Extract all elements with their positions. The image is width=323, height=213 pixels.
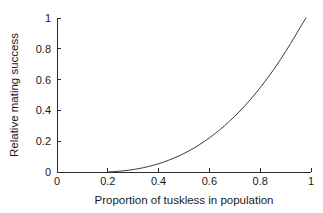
y-tick-label: 0.4 (36, 104, 51, 116)
y-tick-label: 0.2 (36, 135, 51, 147)
x-tick-label: 0.4 (151, 175, 166, 187)
y-axis-title: Relative mating success (8, 33, 20, 157)
y-tick-label: 0.8 (36, 43, 51, 55)
y-axis-tick-marks (57, 18, 61, 172)
y-tick-label: 1 (45, 12, 51, 24)
x-tick-label: 0.8 (253, 175, 268, 187)
x-tick-label: 0.2 (100, 175, 115, 187)
x-tick-label: 0.6 (202, 175, 217, 187)
x-axis-tick-labels: 00.20.40.60.81 (54, 175, 314, 187)
plot-canvas: 00.20.40.60.81 00.20.40.60.81 Proportion… (0, 0, 323, 213)
y-tick-label: 0.6 (36, 74, 51, 86)
data-series-curve (108, 18, 306, 172)
x-axis-title: Proportion of tuskless in population (95, 194, 274, 206)
x-tick-label: 1 (308, 175, 314, 187)
x-axis-tick-marks (57, 168, 311, 172)
x-tick-label: 0 (54, 175, 60, 187)
y-tick-label: 0 (45, 166, 51, 178)
y-axis-tick-labels: 00.20.40.60.81 (36, 12, 51, 178)
chart-figure: 00.20.40.60.81 00.20.40.60.81 Proportion… (0, 0, 323, 213)
